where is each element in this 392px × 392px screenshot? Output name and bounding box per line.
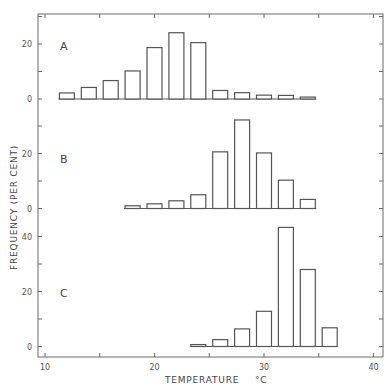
- axis-ticks: [45, 14, 374, 357]
- histogram-bar: [147, 204, 162, 209]
- x-tick-label: 40: [368, 363, 378, 372]
- y-tick-label: 20: [22, 288, 32, 297]
- y-tick-label: 0: [27, 95, 32, 104]
- y-tick-label: 0: [27, 343, 32, 352]
- y-tick-label: 20: [22, 40, 32, 49]
- histogram-chart: 020A020B02040C 10203040 TEMPERATURE °C F…: [0, 0, 392, 392]
- histogram-bar: [191, 43, 206, 99]
- histogram-bar: [235, 329, 250, 347]
- histogram-bar: [81, 87, 96, 99]
- x-tick-label: 20: [149, 363, 159, 372]
- histogram-bar: [191, 345, 206, 347]
- plot-frame: [38, 14, 383, 357]
- histogram-bar: [147, 48, 162, 99]
- x-axis-label: TEMPERATURE: [164, 375, 239, 385]
- panel-label: B: [60, 153, 68, 166]
- histogram-bar: [213, 340, 228, 347]
- histogram-bar: [278, 95, 293, 99]
- histogram-bar: [300, 199, 315, 208]
- histogram-bar: [257, 153, 272, 209]
- x-tick-label: 30: [259, 363, 269, 372]
- histogram-bar: [300, 97, 315, 99]
- histogram-bar: [103, 81, 118, 99]
- histogram-bar: [235, 120, 250, 209]
- x-tick-labels: 10203040: [40, 363, 379, 372]
- panel-a: 020A: [22, 17, 383, 105]
- histogram-bar: [125, 206, 140, 209]
- y-axis-label: FREQUENCY (PER CENT): [9, 145, 19, 270]
- x-tick-label: 10: [40, 363, 50, 372]
- histogram-bar: [191, 195, 206, 209]
- panel-label: C: [60, 287, 68, 300]
- y-tick-label: 0: [27, 205, 32, 214]
- histogram-bar: [169, 33, 184, 99]
- panel-b: 020B: [22, 120, 383, 214]
- histogram-bar: [278, 227, 293, 346]
- panel-c: 02040C: [22, 227, 383, 351]
- y-tick-label: 20: [22, 150, 32, 159]
- histogram-bar: [300, 270, 315, 347]
- histogram-bar: [257, 311, 272, 346]
- histogram-bar: [257, 95, 272, 99]
- histogram-bar: [169, 201, 184, 209]
- panel-label: A: [60, 40, 68, 53]
- histogram-bar: [278, 180, 293, 208]
- histogram-bar: [59, 93, 74, 99]
- histogram-panels: 020A020B02040C: [22, 17, 383, 352]
- histogram-bar: [213, 90, 228, 99]
- histogram-bar: [125, 71, 140, 99]
- histogram-bar: [235, 93, 250, 99]
- y-tick-label: 40: [22, 233, 32, 242]
- x-axis-unit: °C: [255, 375, 267, 385]
- histogram-bar: [322, 328, 337, 347]
- histogram-bar: [213, 152, 228, 209]
